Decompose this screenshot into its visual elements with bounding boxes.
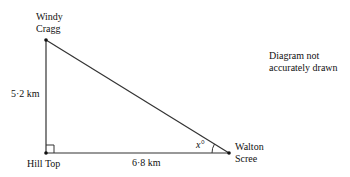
label-hill-top: Hill Top (27, 158, 60, 170)
point-hill-top (44, 151, 48, 155)
label-angle-x: x° (196, 139, 204, 151)
label-walton-scree-2: Scree (235, 153, 257, 165)
note-line-2: accurately drawn (269, 62, 338, 74)
note-line-1: Diagram not (269, 50, 319, 62)
point-walton-scree (227, 151, 231, 155)
label-windy-cragg-1: Windy (36, 11, 63, 23)
point-windy-cragg (44, 38, 48, 42)
label-vertical-side: 5·2 km (11, 88, 40, 100)
label-windy-cragg-2: Cragg (36, 23, 60, 35)
label-horizontal-side: 6·8 km (132, 157, 161, 169)
angle-arc (212, 144, 215, 153)
side-hypotenuse (46, 40, 229, 153)
label-walton-scree-1: Walton (235, 141, 264, 153)
